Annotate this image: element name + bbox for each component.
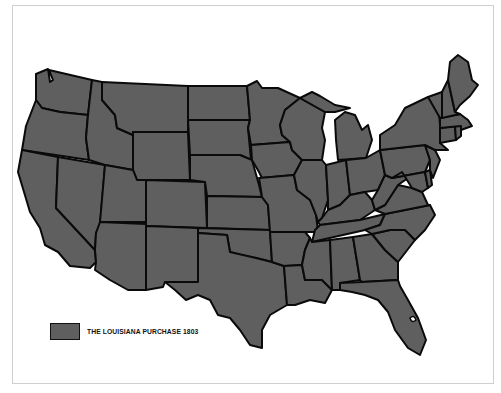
state-wyoming [133,132,190,180]
state-new-mexico [146,226,198,290]
lake-okeechobee [410,316,416,321]
state-north-dakota [188,86,250,120]
state-arizona [95,222,146,290]
state-maine [448,55,478,112]
legend-swatch [50,323,80,340]
legend-label: THE LOUISIANA PURCHASE 1803 [87,327,198,336]
state-kansas [207,196,270,230]
legend: THE LOUISIANA PURCHASE 1803 [50,323,211,340]
state-colorado [146,180,207,228]
